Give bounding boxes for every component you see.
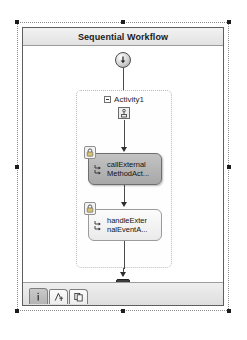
resize-handle-middle-right[interactable] (227, 165, 231, 169)
fault-handler-icon (74, 292, 84, 302)
tab-properties[interactable] (29, 288, 48, 304)
connector-activity1-to-activity2 (124, 185, 125, 203)
workflow-footer (23, 282, 223, 305)
activity-label-handleexternalevent: handleExter nalEventA... (107, 216, 147, 234)
arrowhead-to-activity2 (121, 202, 127, 207)
cancel-handler-icon (54, 292, 64, 302)
workflow-canvas[interactable]: Activity1 (23, 46, 223, 282)
footer-tab-strip[interactable] (29, 288, 89, 304)
workflow-window: Sequential Workflow Activity1 (22, 27, 224, 306)
start-node[interactable] (115, 52, 131, 68)
properties-icon (34, 292, 43, 302)
workflow-designer[interactable]: Sequential Workflow Activity1 (17, 22, 229, 311)
arrowhead-to-activity1 (121, 147, 127, 152)
resize-handle-top-center[interactable] (121, 20, 125, 24)
resize-handle-top-right[interactable] (227, 20, 231, 24)
page-title: Sequential Workflow (78, 32, 168, 42)
lock-icon (84, 146, 96, 159)
connector-header-to-activity1 (124, 120, 125, 148)
activity-label-callexternalmethod: callExternal MethodAct... (107, 160, 149, 178)
resize-handle-bottom-right[interactable] (227, 309, 231, 313)
resize-handle-bottom-center[interactable] (121, 309, 125, 313)
minus-box-icon[interactable] (104, 96, 111, 103)
composite-activity-header[interactable]: Activity1 (77, 95, 171, 104)
connector-activity2-to-bottom (124, 241, 125, 269)
activity-handleexternalevent[interactable]: handleExter nalEventA... (88, 209, 162, 241)
workflow-title-bar: Sequential Workflow (23, 28, 223, 46)
lock-icon (84, 202, 96, 215)
tab-cancel-handler[interactable] (49, 289, 68, 304)
arrowhead-to-end (120, 272, 126, 277)
handle-external-event-icon (93, 219, 104, 232)
composite-activity-label: Activity1 (114, 95, 144, 104)
tab-fault-handler[interactable] (69, 289, 88, 304)
resize-handle-middle-left[interactable] (15, 165, 19, 169)
circle-down-arrow-icon (118, 55, 128, 65)
resize-handle-bottom-left[interactable] (15, 309, 19, 313)
sequence-activity-icon (118, 107, 130, 119)
activity-callexternalmethod[interactable]: callExternal MethodAct... (88, 153, 162, 185)
call-external-method-icon (93, 163, 104, 176)
resize-handle-top-left[interactable] (15, 20, 19, 24)
composite-activity-activity1[interactable]: Activity1 (76, 90, 172, 268)
